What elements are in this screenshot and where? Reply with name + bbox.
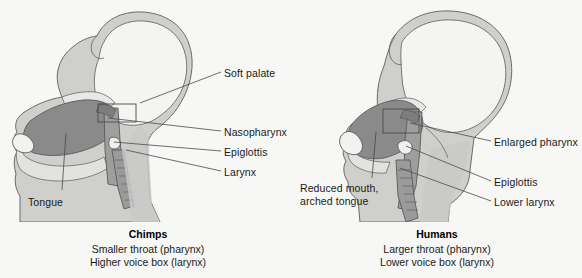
label-lower-larynx: Lower larynx xyxy=(494,196,555,209)
label-tongue: Tongue xyxy=(28,196,63,209)
label-enlarged-pharynx: Enlarged pharynx xyxy=(494,136,578,149)
label-larynx: Larynx xyxy=(224,166,256,179)
caption-humans-line-2: Lower voice box (larynx) xyxy=(347,256,527,269)
label-soft-palate: Soft palate xyxy=(224,67,275,80)
figure-canvas: Soft palate Nasopharynx Epiglottis Laryn… xyxy=(0,0,582,278)
label-nasopharynx: Nasopharynx xyxy=(224,126,287,139)
caption-subtitle-humans: Larger throat (pharynx) Lower voice box … xyxy=(347,243,527,269)
label-epiglottis-human: Epiglottis xyxy=(494,176,538,189)
chimp-epiglottis xyxy=(109,137,120,149)
label-reduced-mouth: Reduced mouth, xyxy=(300,182,378,195)
caption-title-humans: Humans xyxy=(377,228,497,240)
caption-humans-line-1: Larger throat (pharynx) xyxy=(347,243,527,256)
chimp-head-diagram xyxy=(13,12,193,222)
caption-chimps-line-2: Higher voice box (larynx) xyxy=(58,256,238,269)
caption-subtitle-chimps: Smaller throat (pharynx) Higher voice bo… xyxy=(58,243,238,269)
label-epiglottis-chimp: Epiglottis xyxy=(224,146,268,159)
caption-title-chimps: Chimps xyxy=(88,228,208,240)
label-arched-tongue: arched tongue xyxy=(300,195,368,208)
caption-chimps-line-1: Smaller throat (pharynx) xyxy=(58,243,238,256)
